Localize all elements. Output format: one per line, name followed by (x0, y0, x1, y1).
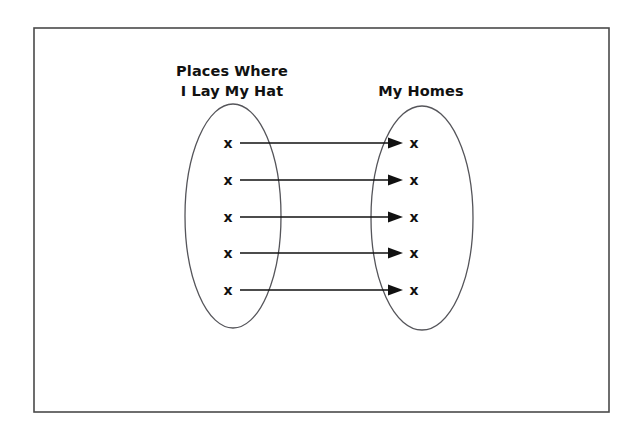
domain-set-label-line-2: I Lay My Hat (181, 83, 284, 99)
diagram-canvas: x x x x x x x x x x Places Where I Lay M… (0, 0, 638, 437)
codomain-element-5: x (409, 282, 418, 298)
codomain-element-3: x (409, 209, 418, 225)
diagram-frame (34, 28, 609, 412)
mapping-diagram: x x x x x x x x x x Places Where I Lay M… (0, 0, 638, 437)
codomain-element-1: x (409, 135, 418, 151)
mapping-arrow-2 (240, 175, 403, 186)
mapping-arrow-3 (240, 212, 403, 223)
domain-element-1: x (223, 135, 232, 151)
domain-element-2: x (223, 172, 232, 188)
mapping-arrow-1 (240, 138, 403, 149)
domain-element-4: x (223, 245, 232, 261)
arrowhead-icon (388, 138, 403, 149)
domain-element-5: x (223, 282, 232, 298)
arrowhead-icon (388, 285, 403, 296)
domain-set-label-line-1: Places Where (176, 63, 288, 79)
arrowhead-icon (388, 212, 403, 223)
domain-set-ellipse (185, 104, 281, 328)
mapping-arrow-5 (240, 285, 403, 296)
arrowhead-icon (388, 248, 403, 259)
codomain-set-label: My Homes (378, 83, 463, 99)
codomain-element-2: x (409, 172, 418, 188)
arrowhead-icon (388, 175, 403, 186)
codomain-set-ellipse (371, 106, 473, 330)
domain-element-3: x (223, 209, 232, 225)
codomain-element-4: x (409, 245, 418, 261)
mapping-arrow-4 (240, 248, 403, 259)
